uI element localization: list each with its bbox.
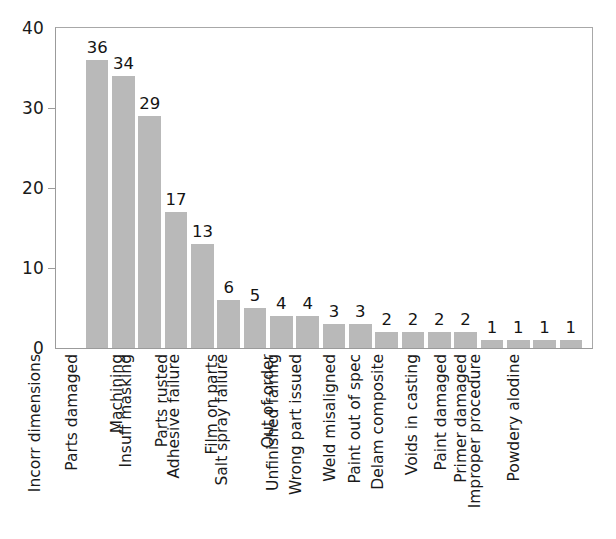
bar-rect — [217, 300, 240, 348]
bar-value-label: 6 — [223, 280, 234, 297]
bar-value-label: 4 — [302, 296, 313, 313]
bar[interactable]: 4 — [296, 28, 319, 348]
bars-container: 363429171365443322221111 — [56, 28, 592, 348]
y-axis: 010203040 — [0, 0, 55, 360]
bar-rect — [191, 244, 214, 348]
bar-value-label: 3 — [329, 304, 340, 321]
bar-value-label: 2 — [408, 312, 419, 329]
y-tick-mark — [48, 108, 56, 109]
bar[interactable]: 1 — [533, 28, 556, 348]
bar-rect — [165, 212, 188, 348]
bar-rect — [138, 116, 161, 348]
x-tick-label-text: Improper procedure — [467, 354, 483, 508]
x-tick-label: Incorr dimensions — [86, 352, 109, 539]
bar[interactable]: 4 — [270, 28, 293, 348]
x-tick-label: Paint damaged — [481, 352, 504, 539]
bar[interactable]: 2 — [375, 28, 398, 348]
bar[interactable]: 3 — [349, 28, 372, 348]
bar-value-label: 1 — [513, 320, 524, 337]
y-tick-label: 30 — [22, 100, 44, 117]
bar[interactable]: 29 — [138, 28, 161, 348]
x-tick-label-text: Insuff masking — [119, 354, 135, 468]
bar-rect — [428, 332, 451, 348]
bar-rect — [481, 340, 504, 348]
x-tick-label-text: Weld misaligned — [323, 354, 339, 482]
x-tick-label-text: Wrong part issued — [290, 354, 306, 495]
x-axis-labels: Incorr dimensionsParts damagedMachiningI… — [56, 352, 592, 539]
bar-rect — [323, 324, 346, 348]
x-tick-label-text: Incorr dimensions — [28, 354, 44, 492]
bar-value-label: 13 — [192, 224, 213, 241]
y-tick-label: 20 — [22, 180, 44, 197]
x-tick-label-text: Powdery alodine — [507, 354, 523, 482]
bar-value-label: 34 — [113, 56, 134, 73]
bar[interactable]: 34 — [112, 28, 135, 348]
y-tick-mark — [48, 268, 56, 269]
y-tick-label: 10 — [22, 260, 44, 277]
bar-rect — [86, 60, 109, 348]
bar[interactable]: 36 — [86, 28, 109, 348]
bar-value-label: 1 — [566, 320, 577, 337]
x-tick-label-text: Paint damaged — [434, 354, 450, 470]
bar-value-label: 5 — [250, 288, 261, 305]
bar-value-label: 2 — [460, 312, 471, 329]
bar[interactable]: 17 — [165, 28, 188, 348]
x-tick-label-text: Paint out of spec — [348, 354, 364, 483]
bar-rect — [296, 316, 319, 348]
bar[interactable]: 1 — [560, 28, 583, 348]
x-tick-label: Improper procedure — [533, 352, 556, 539]
bar[interactable]: 1 — [481, 28, 504, 348]
bar-rect — [244, 308, 267, 348]
x-tick-label-text: Parts damaged — [65, 354, 81, 471]
x-tick-label-text: Adhesive failure — [166, 354, 182, 479]
bar-chart: 010203040 363429171365443322221111 Incor… — [0, 0, 616, 539]
bar-value-label: 3 — [355, 304, 366, 321]
x-tick-label: Powdery alodine — [560, 352, 583, 539]
bar-rect — [507, 340, 530, 348]
x-tick-label-text: Salt spray failure — [216, 354, 232, 486]
x-tick-label-text: Voids in casting — [405, 354, 421, 475]
bar[interactable]: 3 — [323, 28, 346, 348]
bar[interactable]: 6 — [217, 28, 240, 348]
bar-rect — [533, 340, 556, 348]
bar-rect — [112, 76, 135, 348]
bar-rect — [270, 316, 293, 348]
x-tick-label-text: Delam composite — [371, 354, 387, 490]
bar[interactable]: 13 — [191, 28, 214, 348]
bar-rect — [375, 332, 398, 348]
y-tick-label: 40 — [22, 20, 44, 37]
bar[interactable]: 2 — [454, 28, 477, 348]
bar-value-label: 36 — [87, 40, 108, 57]
bar-rect — [402, 332, 425, 348]
bar[interactable]: 5 — [244, 28, 267, 348]
bar-value-label: 1 — [487, 320, 498, 337]
bar-value-label: 4 — [276, 296, 287, 313]
bar-value-label: 29 — [139, 96, 160, 113]
bar-value-label: 17 — [166, 192, 187, 209]
y-tick-mark — [48, 188, 56, 189]
bar-rect — [349, 324, 372, 348]
bar-value-label: 2 — [381, 312, 392, 329]
bar-value-label: 2 — [434, 312, 445, 329]
bar[interactable]: 2 — [402, 28, 425, 348]
bar-value-label: 1 — [539, 320, 550, 337]
bar-rect — [454, 332, 477, 348]
bar[interactable]: 2 — [428, 28, 451, 348]
bar-rect — [560, 340, 583, 348]
bar[interactable]: 1 — [507, 28, 530, 348]
x-tick-label-text: Unfinished fairing — [266, 354, 282, 491]
